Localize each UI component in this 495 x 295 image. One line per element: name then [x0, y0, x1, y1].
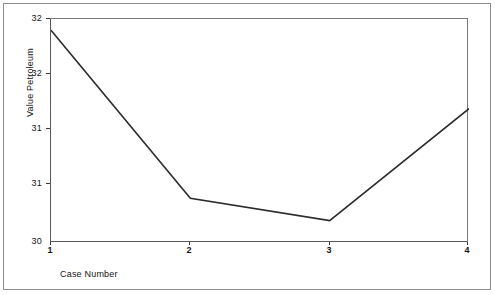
chart-figure: 32 32 31 31 30 Value Petroleum 1 2 3 4 C…: [0, 0, 495, 295]
data-line-svg: [51, 19, 469, 243]
y-tick-label: 32: [2, 14, 42, 23]
x-tick-label: 4: [452, 246, 482, 255]
plot-area: [50, 18, 468, 242]
y-tick-label: 31: [2, 179, 42, 188]
x-tick-label: 3: [314, 246, 344, 255]
x-tick-label: 1: [35, 246, 65, 255]
x-axis-tick-group: 1 2 3 4: [0, 246, 495, 260]
y-axis-title: Value Petroleum: [26, 3, 35, 163]
y-tick-label: 32: [2, 69, 42, 78]
x-tick-label: 2: [174, 246, 204, 255]
y-tick-label: 30: [2, 237, 42, 246]
y-tick-label: 31: [2, 124, 42, 133]
x-axis-title: Case Number: [60, 270, 118, 279]
data-line-series: [51, 30, 469, 220]
